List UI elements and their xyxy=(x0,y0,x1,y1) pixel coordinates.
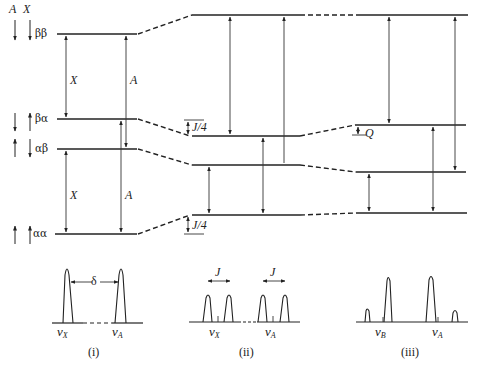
label-nu-a-i: νA xyxy=(112,324,123,340)
state-label-bb: ββ xyxy=(35,27,47,39)
label-j4-lower: J/4 xyxy=(192,218,207,232)
label-j-right: J xyxy=(270,265,276,279)
label-nu-x-i: νX xyxy=(57,324,69,340)
peak xyxy=(452,311,458,323)
peak xyxy=(224,295,233,322)
peak xyxy=(115,269,126,323)
connector xyxy=(300,165,356,172)
spectrum-ii: J J νX νA (ii) xyxy=(189,265,300,359)
caption-ii: (ii) xyxy=(239,345,254,359)
spin-arrows-ab xyxy=(15,139,30,157)
label-nu-a-iii: νA xyxy=(432,324,443,340)
peak xyxy=(384,278,392,323)
label-nu-x-ii: νX xyxy=(209,324,221,340)
spectrum-i: δ νX νA (i) xyxy=(52,269,143,359)
peak xyxy=(280,295,289,322)
peak xyxy=(63,269,73,323)
label-a-lower: A xyxy=(124,188,133,202)
label-nu-b-iii: νB xyxy=(375,324,386,340)
caption-iii: (iii) xyxy=(401,345,419,359)
label-q: Q xyxy=(365,126,374,140)
state-label-aa: αα xyxy=(33,227,47,239)
label-j-left: J xyxy=(215,265,221,279)
label-nu-a-ii: νA xyxy=(265,324,276,340)
label-x-lower: X xyxy=(69,188,78,202)
peak xyxy=(426,277,436,323)
energy-level-diagram: A X ββ βα αβ αα X X A A J/4 xyxy=(0,0,483,369)
label-delta: δ xyxy=(91,274,97,288)
connector xyxy=(138,15,192,34)
peak xyxy=(365,309,370,322)
label-x-upper: X xyxy=(69,73,78,87)
state-label-ab: αβ xyxy=(35,142,48,154)
spin-header-a: A xyxy=(8,2,17,16)
connector xyxy=(300,125,355,136)
state-label-ba: βα xyxy=(35,112,48,124)
label-a-upper: A xyxy=(129,73,138,87)
spin-header-x: X xyxy=(22,2,31,16)
connector xyxy=(300,213,357,215)
spectrum-iii: νB νA (iii) xyxy=(356,277,468,360)
connector xyxy=(138,149,192,165)
peak xyxy=(258,295,267,322)
connector xyxy=(138,119,190,136)
caption-i: (i) xyxy=(88,345,99,359)
label-j4-upper: J/4 xyxy=(192,120,207,134)
spin-arrows-bb xyxy=(15,20,30,40)
peak xyxy=(203,295,212,322)
spin-arrows-aa xyxy=(15,226,30,244)
spin-arrows-ba xyxy=(15,113,30,131)
connector xyxy=(138,215,190,234)
